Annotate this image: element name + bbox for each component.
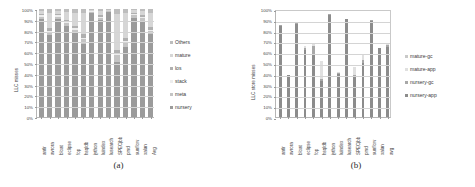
- bar-segment: [295, 24, 298, 117]
- bar: [370, 20, 373, 117]
- panel-b-plot-area: [275, 10, 391, 118]
- panel-a-plot-area: [36, 10, 154, 118]
- bar-segment: [64, 12, 69, 20]
- bar-segment: [39, 19, 44, 117]
- bar-segment: [55, 15, 60, 16]
- panel-b: LLC store misses 0%10%20%30%40%50%60%70%…: [237, 0, 475, 187]
- x-tick-label: eclipse: [306, 141, 311, 155]
- bar-group: [320, 11, 323, 117]
- x-tick-mark: [109, 117, 110, 119]
- bar-segment: [98, 9, 103, 11]
- bar: [81, 9, 86, 117]
- x-tick-label: lusearch: [347, 138, 352, 155]
- gridline: [37, 53, 154, 54]
- legend-label: Others: [175, 38, 190, 46]
- bar-segment: [140, 21, 145, 117]
- y-tick-label: 80%: [263, 29, 272, 34]
- gridline: [276, 97, 390, 98]
- y-tick-label: 70%: [24, 40, 33, 45]
- bar-segment: [131, 10, 136, 13]
- bar-segment: [81, 44, 86, 117]
- x-tick-mark: [346, 117, 347, 119]
- bar-segment: [148, 27, 153, 29]
- bar: [39, 9, 44, 117]
- legend-label: mature-gc: [410, 52, 433, 60]
- bar-segment: [72, 13, 77, 26]
- bar-segment: [114, 55, 119, 61]
- x-tick-mark: [142, 117, 143, 119]
- x-tick-mark: [280, 117, 281, 119]
- bar-segment: [55, 11, 60, 14]
- bar-segment: [148, 30, 153, 31]
- x-tick-mark: [83, 117, 84, 119]
- panel-a-caption: (a): [0, 160, 237, 170]
- x-tick-label: avrora: [289, 142, 294, 155]
- y-tick-mark: [35, 64, 37, 65]
- x-tick-mark: [41, 117, 42, 119]
- y-tick-label: 60%: [263, 51, 272, 56]
- legend-swatch-icon: [405, 81, 408, 84]
- x-tick-label: xalan: [143, 144, 148, 155]
- bar-segment: [89, 12, 94, 13]
- y-tick-mark: [274, 54, 276, 55]
- gridline: [37, 86, 154, 87]
- x-tick-label: pmd: [126, 146, 131, 155]
- bar-segment: [140, 11, 145, 15]
- bar-group: [287, 11, 290, 117]
- x-tick-mark: [92, 117, 93, 119]
- bar-segment: [98, 11, 103, 15]
- bar-segment: [386, 47, 389, 117]
- bar-segment: [64, 9, 69, 12]
- bar-group: [279, 11, 282, 117]
- y-tick-label: 60%: [24, 51, 33, 56]
- bar-segment: [55, 17, 60, 19]
- gridline: [37, 32, 154, 33]
- legend-label: mature: [175, 51, 191, 59]
- bar-segment: [320, 79, 323, 81]
- y-tick-mark: [35, 75, 37, 76]
- y-tick-label: 100%: [261, 8, 272, 13]
- bar-segment: [370, 21, 373, 117]
- legend-swatch-icon: [170, 93, 173, 96]
- bar: [89, 9, 94, 117]
- x-tick-mark: [297, 117, 298, 119]
- x-tick-label: fop: [314, 149, 319, 155]
- x-tick-mark: [363, 117, 364, 119]
- bar-segment: [98, 20, 103, 117]
- x-tick-label: SPECjbb: [356, 137, 361, 155]
- bar: [140, 9, 145, 117]
- bar-segment: [370, 20, 373, 21]
- x-tick-mark: [305, 117, 306, 119]
- bar-segment: [304, 46, 307, 48]
- x-tick-mark: [322, 117, 323, 119]
- gridline: [37, 21, 154, 22]
- x-tick-label: bloat: [298, 145, 303, 155]
- panel-a: LLC misses 0%10%20%30%40%50%60%70%80%90%…: [0, 0, 237, 187]
- y-tick-label: 40%: [24, 72, 33, 77]
- legend-swatch-icon: [405, 68, 408, 71]
- bar-segment: [131, 14, 136, 15]
- x-tick-mark: [100, 117, 101, 119]
- y-tick-label: 10%: [24, 105, 33, 110]
- bar: [114, 9, 119, 117]
- gridline: [37, 42, 154, 43]
- bar-segment: [64, 26, 69, 117]
- legend-swatch-icon: [170, 41, 173, 44]
- y-tick-mark: [274, 22, 276, 23]
- x-tick-mark: [388, 117, 389, 119]
- legend-swatch-icon: [405, 55, 408, 58]
- gridline: [37, 64, 154, 65]
- y-tick-label: 90%: [24, 18, 33, 23]
- legend-label: los: [175, 64, 181, 72]
- bar-segment: [140, 17, 145, 18]
- gridline: [276, 87, 390, 88]
- bar-segment: [72, 28, 77, 29]
- bar-segment: [386, 45, 389, 47]
- bar-segment: [89, 10, 94, 11]
- gridline: [37, 75, 154, 76]
- y-tick-mark: [274, 87, 276, 88]
- bar-segment: [98, 17, 103, 18]
- x-tick-label: luindex: [101, 141, 106, 155]
- bar-segment: [47, 35, 52, 117]
- bar-segment: [362, 60, 365, 63]
